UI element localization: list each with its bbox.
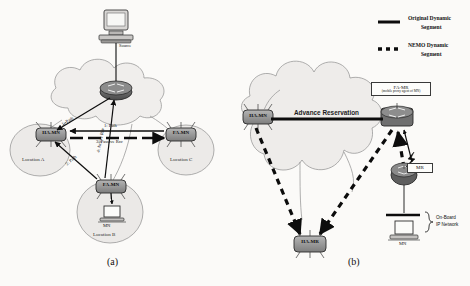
onboard-brace	[425, 212, 433, 232]
node-label-fa-mn-right: FA-MN	[166, 130, 196, 135]
device-source-workstation	[99, 10, 133, 43]
node-label-ha-mr-b: HA-MR	[294, 239, 326, 244]
nemo-segment-mr-famr	[398, 132, 404, 168]
legend-item-0-line1: Original Dynamic	[408, 15, 451, 21]
device-mn-laptop-b	[388, 221, 420, 240]
node-label-fa-mn-bottom: FA-MN	[96, 182, 126, 187]
fa-mr-box-line2: (mobile proxy agent of MN)	[373, 90, 429, 94]
advance-reservation-label: Advance Reservation	[294, 110, 359, 117]
flow-label-right-path: 1: Path	[104, 124, 117, 129]
figure-container: Source HA-MN FA-MN FA-MN MN Location A L…	[0, 0, 470, 286]
caption-a: (a)	[107, 256, 118, 267]
node-core-router-a	[100, 81, 132, 100]
legend-item-1-line2: Segment	[421, 51, 442, 57]
node-fa-mr-b	[381, 106, 413, 126]
cloud-label-location-b: Location B	[93, 232, 115, 237]
mr-annotation-box: MR	[407, 163, 433, 173]
fa-mr-annotation-box: FA-MR (mobile proxy agent of MN)	[371, 82, 431, 96]
node-label-ha-mn-a: HA-MN	[36, 130, 66, 135]
cloud-label-location-a: Location A	[22, 157, 44, 162]
label-mn-b: MN	[399, 242, 406, 247]
flow-label-3: 3: Passive Rsv	[96, 140, 123, 145]
onboard-label-line1: On-Board	[436, 216, 456, 221]
legend-item-1-line1: NEMO Dynamic	[408, 42, 448, 48]
cloud-label-location-c: Location C	[170, 157, 192, 162]
caption-b: (b)	[348, 256, 360, 267]
node-label-ha-mn-b: HA-MN	[243, 113, 273, 118]
legend-item-0-line2: Segment	[421, 24, 442, 30]
onboard-label-line2: IP Network	[436, 223, 458, 228]
label-source: Source	[119, 44, 131, 49]
label-mn-a: MN	[103, 224, 110, 229]
